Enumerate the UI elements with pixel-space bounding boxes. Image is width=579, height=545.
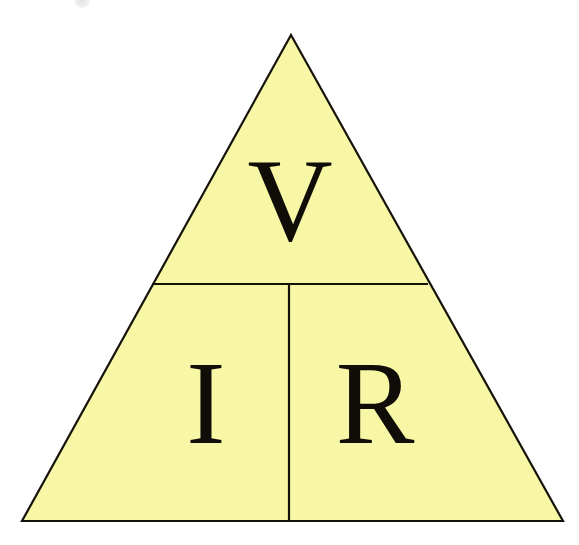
triangle-diagram-canvas: V I R bbox=[0, 0, 579, 545]
ohms-law-triangle-figure: V I R bbox=[0, 0, 579, 545]
cell-label-voltage: V bbox=[247, 135, 332, 266]
cell-label-resistance: R bbox=[336, 338, 415, 469]
cell-label-current: I bbox=[186, 338, 225, 469]
